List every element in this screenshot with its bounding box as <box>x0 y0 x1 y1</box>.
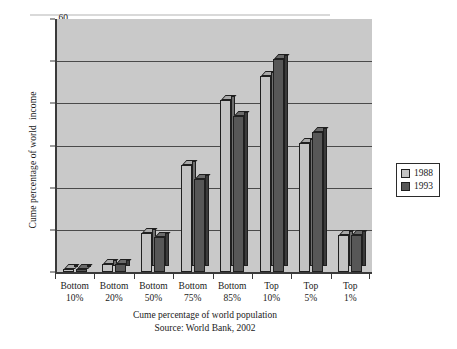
bar-1993-bottom-85 <box>233 116 244 272</box>
legend-swatch-1993-icon <box>401 182 410 191</box>
x-tick-mark-6 <box>291 272 292 279</box>
source-caption: Source: World Bank, 2002 <box>40 323 370 333</box>
bar-1988-bottom-75 <box>181 165 192 272</box>
x-tick-mark-3 <box>173 272 174 279</box>
x-label-line2: 50% <box>134 292 173 304</box>
legend-item-1993: 1993 <box>401 180 433 193</box>
legend-label-1988: 1988 <box>414 169 433 179</box>
bar-1988-bottom-85 <box>220 100 231 272</box>
x-label-line1: Top <box>343 281 358 291</box>
bar-1993-bottom-50 <box>154 237 165 272</box>
x-label-line1: Bottom <box>179 281 208 291</box>
x-tick-mark-7 <box>331 272 332 279</box>
x-label-bottom-75: Bottom 75% <box>173 280 212 304</box>
bar-1993-top-5 <box>312 132 323 272</box>
x-tick-mark-2 <box>134 272 135 279</box>
x-label-line1: Bottom <box>139 281 168 291</box>
x-tick-mark-8 <box>369 272 370 279</box>
bar-1993-bottom-20 <box>115 264 126 272</box>
x-axis-labels: Bottom 10% Bottom 20% Bottom 50% Bottom … <box>55 280 370 304</box>
x-label-line1: Bottom <box>60 281 89 291</box>
bar-group-top-10 <box>252 19 291 272</box>
x-axis-ticks <box>55 272 370 279</box>
x-label-line2: 75% <box>173 292 212 304</box>
bar-group-bottom-10 <box>55 19 94 272</box>
bar-group-top-5 <box>291 19 330 272</box>
x-tick-mark-1 <box>94 272 95 279</box>
x-label-line1: Top <box>304 281 319 291</box>
y-axis-title: Cume percentage of world income <box>28 45 38 275</box>
x-label-line2: 10% <box>55 292 94 304</box>
x-label-line2: 10% <box>252 292 291 304</box>
chart-figure: Cume percentage of world income 60 50 40… <box>0 0 457 349</box>
x-label-bottom-10: Bottom 10% <box>55 280 94 304</box>
bar-group-bottom-20 <box>94 19 133 272</box>
x-label-bottom-50: Bottom 50% <box>134 280 173 304</box>
chart-legend: 1988 1993 <box>396 163 440 197</box>
x-axis-title: Cume percentage of world population <box>40 310 370 320</box>
x-label-bottom-20: Bottom 20% <box>94 280 133 304</box>
bar-group-bottom-85 <box>213 19 252 272</box>
x-tick-mark-5 <box>252 272 253 279</box>
bar-1988-top-1 <box>338 235 349 272</box>
x-label-line2: 85% <box>213 292 252 304</box>
legend-swatch-1988-icon <box>401 169 410 178</box>
bar-group-bottom-50 <box>134 19 173 272</box>
bar-groups <box>55 19 370 272</box>
x-label-line2: 20% <box>94 292 133 304</box>
bar-1988-bottom-20 <box>102 264 113 272</box>
bar-1988-bottom-50 <box>141 233 152 272</box>
x-label-top-1: Top 1% <box>331 280 370 304</box>
bar-1993-bottom-75 <box>194 179 205 272</box>
bar-1993-top-1 <box>351 235 362 272</box>
x-label-top-10: Top 10% <box>252 280 291 304</box>
bar-1988-top-5 <box>299 143 310 272</box>
scan-artifact <box>30 14 330 16</box>
bar-1988-top-10 <box>260 76 271 272</box>
x-label-bottom-85: Bottom 85% <box>213 280 252 304</box>
bar-group-top-1 <box>331 19 370 272</box>
legend-label-1993: 1993 <box>414 182 433 192</box>
x-label-line2: 1% <box>331 292 370 304</box>
x-label-line2: 5% <box>291 292 330 304</box>
x-label-line1: Bottom <box>100 281 129 291</box>
legend-item-1988: 1988 <box>401 167 433 180</box>
x-tick-mark-0 <box>55 272 56 279</box>
x-label-line1: Top <box>264 281 279 291</box>
x-label-line1: Bottom <box>218 281 247 291</box>
bar-1993-top-10 <box>273 59 284 272</box>
x-tick-mark-4 <box>213 272 214 279</box>
bar-group-bottom-75 <box>173 19 212 272</box>
x-label-top-5: Top 5% <box>291 280 330 304</box>
